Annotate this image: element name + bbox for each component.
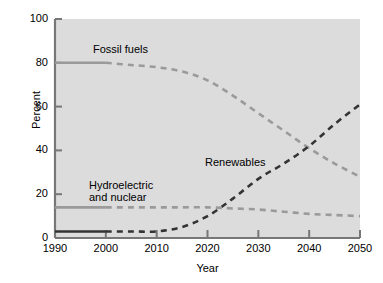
x-tick-label: 2030 — [236, 243, 280, 254]
y-tick-label: 20 — [18, 188, 48, 199]
x-tick-label: 2000 — [84, 243, 128, 254]
y-tick-label: 60 — [18, 101, 48, 112]
x-tick-label: 1990 — [33, 243, 77, 254]
x-tick-label: 2020 — [186, 243, 230, 254]
y-tick-label: 100 — [18, 13, 48, 24]
x-tick-label: 2010 — [135, 243, 179, 254]
y-tick-label: 80 — [18, 57, 48, 68]
x-tick-label: 2040 — [287, 243, 331, 254]
y-tick-label: 40 — [18, 144, 48, 155]
x-tick-label: 2050 — [338, 243, 382, 254]
series-label-renewables: Renewables — [205, 156, 266, 168]
chart-figure: Percent Year 020406080100 19902000201020… — [0, 0, 383, 283]
series-label-hydroelectric-and-nuclear: Hydroelectric and nuclear — [89, 179, 153, 203]
x-axis-title: Year — [55, 262, 360, 274]
series-label-fossil-fuels: Fossil fuels — [93, 43, 148, 55]
energy-mix-projection-chart — [0, 0, 383, 283]
